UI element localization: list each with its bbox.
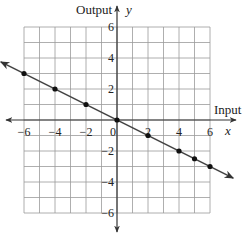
- y-tick-label: 2: [108, 82, 114, 96]
- data-point: [83, 102, 88, 107]
- data-point: [52, 86, 57, 91]
- x-tick-label: −2: [80, 125, 93, 139]
- y-axis-title: Output: [76, 2, 113, 17]
- y-tick-label: −4: [101, 175, 114, 189]
- x-tick-label: 4: [176, 125, 182, 139]
- line-chart: −6−4−20246642−2−4−6 Output y Input x: [0, 0, 242, 238]
- x-axis-title: Input: [214, 102, 242, 117]
- data-point: [21, 71, 26, 76]
- x-tick-label: 6: [207, 125, 213, 139]
- x-tick-label: −4: [49, 125, 62, 139]
- data-point: [207, 164, 212, 169]
- y-tick-label: 6: [108, 20, 114, 34]
- axes: [6, 6, 236, 232]
- y-tick-label: −6: [101, 206, 114, 220]
- data-point: [114, 117, 119, 122]
- y-tick-label: 4: [108, 51, 114, 65]
- y-axis-var: y: [124, 2, 132, 17]
- y-tick-label: −2: [101, 144, 114, 158]
- x-tick-label: 0: [110, 125, 116, 139]
- x-tick-label: −6: [18, 125, 31, 139]
- data-point: [145, 133, 150, 138]
- x-axis-var: x: [224, 123, 231, 138]
- data-point: [192, 156, 197, 161]
- data-point: [176, 148, 181, 153]
